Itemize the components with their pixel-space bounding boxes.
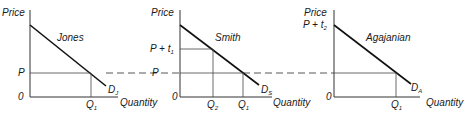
- origin-label: 0: [18, 91, 24, 102]
- demand-label: DJ: [108, 84, 119, 96]
- y-axis-label: Price: [2, 7, 25, 18]
- taxed-price-label: P + t2: [303, 19, 327, 31]
- demand-label: DS: [261, 84, 272, 96]
- demand-label: DA: [411, 82, 422, 94]
- quantity-label-q1: Q1: [86, 99, 97, 111]
- y-axis-label: Price: [151, 7, 174, 18]
- x-axis-label: Quantity: [273, 97, 311, 108]
- panel-title: Jones: [56, 32, 84, 43]
- origin-label: 0: [326, 91, 332, 102]
- panel-agajanian: Price Quantity 0 Agajanian P + t2 DA Q1: [303, 7, 464, 111]
- x-axis-label: Quantity: [426, 97, 464, 108]
- y-axis-label: Price: [304, 7, 327, 18]
- demand-diagram: Price Quantity 0 Jones P DJ Q1 Price Qua…: [0, 0, 474, 115]
- panel-title: Smith: [215, 32, 241, 43]
- quantity-label-q1: Q1: [238, 99, 249, 111]
- panel-title: Agajanian: [365, 32, 411, 43]
- price-label: P: [18, 67, 25, 78]
- quantity-label-q1: Q1: [391, 99, 402, 111]
- price-label: P: [152, 67, 159, 78]
- taxed-price-label: P + t1: [150, 43, 174, 55]
- quantity-label-q2: Q2: [207, 99, 219, 111]
- x-axis-label: Quantity: [120, 97, 158, 108]
- panel-smith: Price Quantity 0 Smith P + t1 P DS Q2 Q1: [150, 7, 311, 111]
- panel-jones: Price Quantity 0 Jones P DJ Q1: [2, 7, 158, 111]
- origin-label: 0: [172, 91, 178, 102]
